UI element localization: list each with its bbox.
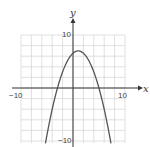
parabola-curve <box>45 51 111 144</box>
y-axis-label: y <box>69 7 76 18</box>
y-max-tick-label: 10 <box>62 30 71 39</box>
x-axis-label: x <box>143 83 149 94</box>
y-axis-arrow-icon <box>71 18 76 23</box>
parabola-chart: −10 10 10 −10 x y <box>0 0 150 147</box>
y-min-tick-label: −10 <box>58 136 72 145</box>
x-max-tick-label: 10 <box>118 91 127 100</box>
x-min-tick-label: −10 <box>9 91 23 100</box>
